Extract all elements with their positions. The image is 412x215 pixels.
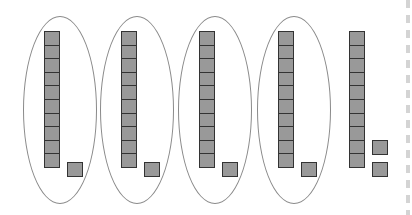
unit-cube <box>144 162 160 177</box>
dashed-divider <box>406 0 410 215</box>
rod-cell <box>199 126 215 141</box>
ten-rod <box>199 31 215 168</box>
group-ellipse <box>178 16 252 204</box>
rod-cell <box>349 99 365 114</box>
rod-cell <box>44 31 60 46</box>
group-ellipse <box>23 16 97 204</box>
unit-cube <box>301 162 317 177</box>
group-ellipse <box>257 16 331 204</box>
unit-cube <box>372 162 388 177</box>
rod-cell <box>278 153 294 168</box>
rod-cell <box>278 99 294 114</box>
rod-cell <box>349 140 365 155</box>
rod-cell <box>199 113 215 128</box>
rod-cell <box>349 113 365 128</box>
rod-cell <box>121 99 137 114</box>
rod-cell <box>44 72 60 87</box>
rod-cell <box>44 58 60 73</box>
rod-cell <box>121 58 137 73</box>
rod-cell <box>44 113 60 128</box>
rod-cell <box>278 85 294 100</box>
rod-cell <box>278 113 294 128</box>
rod-cell <box>278 58 294 73</box>
rod-cell <box>199 153 215 168</box>
rod-cell <box>199 31 215 46</box>
rod-cell <box>349 72 365 87</box>
rod-cell <box>44 140 60 155</box>
rod-cell <box>199 72 215 87</box>
rod-cell <box>349 85 365 100</box>
base-ten-diagram <box>0 0 412 215</box>
rod-cell <box>349 126 365 141</box>
rod-cell <box>121 140 137 155</box>
group-ellipse <box>100 16 174 204</box>
unit-cube <box>67 162 83 177</box>
rod-cell <box>199 85 215 100</box>
rod-cell <box>349 58 365 73</box>
ten-rod <box>278 31 294 168</box>
rod-cell <box>349 31 365 46</box>
rod-cell <box>278 140 294 155</box>
rod-cell <box>199 58 215 73</box>
rod-cell <box>278 45 294 60</box>
unit-cube <box>372 140 388 155</box>
rod-cell <box>121 45 137 60</box>
rod-cell <box>349 45 365 60</box>
rod-cell <box>199 140 215 155</box>
rod-cell <box>278 31 294 46</box>
ten-rod <box>121 31 137 168</box>
unit-cube <box>222 162 238 177</box>
ten-rod <box>44 31 60 168</box>
rod-cell <box>349 153 365 168</box>
rod-cell <box>44 85 60 100</box>
rod-cell <box>44 45 60 60</box>
rod-cell <box>199 45 215 60</box>
rod-cell <box>121 85 137 100</box>
rod-cell <box>44 99 60 114</box>
ten-rod <box>349 31 365 168</box>
rod-cell <box>121 126 137 141</box>
rod-cell <box>278 126 294 141</box>
rod-cell <box>278 72 294 87</box>
rod-cell <box>121 153 137 168</box>
rod-cell <box>44 153 60 168</box>
rod-cell <box>199 99 215 114</box>
rod-cell <box>121 72 137 87</box>
rod-cell <box>44 126 60 141</box>
rod-cell <box>121 113 137 128</box>
rod-cell <box>121 31 137 46</box>
